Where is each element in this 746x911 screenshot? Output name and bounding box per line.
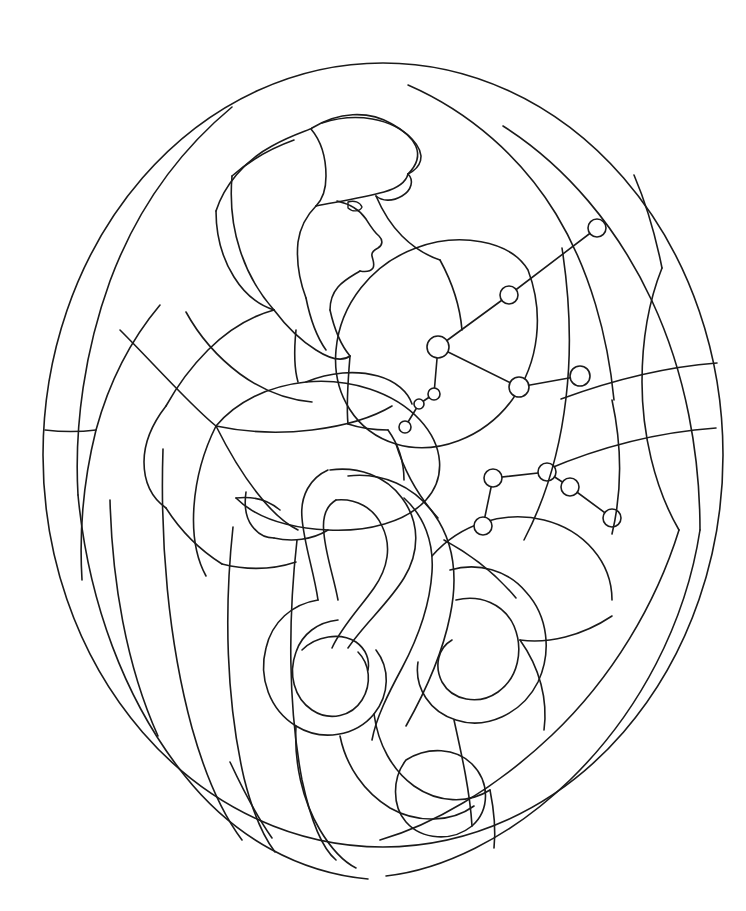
background-fold-left-of-water <box>222 562 296 568</box>
star-s5 <box>570 366 590 386</box>
vessel-rim <box>306 373 412 404</box>
leading-line-right-vertical <box>524 248 569 540</box>
chest-fold-short <box>295 330 298 382</box>
star-t4 <box>603 509 621 527</box>
water-spill-fold <box>274 530 328 540</box>
lower-constellation <box>474 463 621 535</box>
hair-front-mass <box>297 206 316 298</box>
head-covering-brim <box>311 129 326 206</box>
water-ribbon-3-outer <box>374 714 490 800</box>
star-t5 <box>474 517 492 535</box>
star-link-s2-s3 <box>438 295 509 347</box>
star-s3 <box>427 336 449 358</box>
head-covering-lower-edge <box>316 174 408 206</box>
jaw-to-neck <box>330 271 360 310</box>
water-swirl-left-inner <box>293 620 369 716</box>
background-panels <box>45 85 717 879</box>
robe-fold-front <box>347 356 350 424</box>
leading-line-below-sky-circle <box>396 444 438 518</box>
water-ribbon-hook-inner <box>324 500 339 600</box>
star-t3 <box>561 478 579 496</box>
hair-outer-boundary <box>216 128 312 211</box>
glass-leading-extras <box>230 248 620 838</box>
panel-line-left-inner-arc <box>81 305 160 580</box>
head-covering-outer <box>322 118 421 174</box>
panel-line-bottom-right-short <box>520 616 612 641</box>
water-ribbon-1-inner <box>332 500 388 648</box>
panel-line-left-vert-2 <box>162 449 242 840</box>
water-ribbon-1-outer <box>330 469 416 648</box>
star-s7 <box>414 399 424 409</box>
hair-crown-line <box>232 140 294 176</box>
leading-line-right-of-head <box>440 260 462 330</box>
background-curve-mid-right <box>520 640 545 730</box>
water-ribbon-3-inner <box>340 736 474 819</box>
panel-line-bottom-right-sweep-2 <box>380 530 679 840</box>
constellation-background-circles <box>336 240 612 600</box>
face-profile <box>337 201 382 272</box>
water-flow-group <box>222 469 546 868</box>
panel-line-bottom-right-sweep-1 <box>386 530 700 876</box>
robe-fold-right <box>388 430 404 480</box>
hair-inner-fold <box>231 176 274 310</box>
panel-line-bottom-left-sweep <box>78 495 368 879</box>
forearm-line <box>216 426 298 530</box>
leading-line-bottom-center <box>454 720 472 826</box>
neck-right-line <box>330 310 350 356</box>
head-covering-top <box>312 115 418 174</box>
hand-wrist-fold <box>194 426 217 576</box>
star-s6 <box>428 388 440 400</box>
artboard: Aquarius Water Bearer Stained Glass Patt… <box>0 0 746 911</box>
arm-inner-crease <box>186 312 312 402</box>
star-s4 <box>509 377 529 397</box>
panel-line-right-band-lower <box>546 428 716 470</box>
hair-left-silhouette <box>216 211 274 310</box>
hair-back-strand-1 <box>306 298 326 350</box>
panel-line-right-inner-curve <box>642 268 679 530</box>
star-t1 <box>484 469 502 487</box>
panel-line-right-connector <box>634 175 662 268</box>
lower-constellation-stars <box>474 463 621 535</box>
star-link-s3-s4 <box>438 347 519 387</box>
panel-line-left-tick <box>45 430 96 432</box>
line-art-illustration <box>0 0 746 911</box>
elbow-segment <box>120 330 216 426</box>
star-s1 <box>588 219 606 237</box>
star-s8 <box>399 421 411 433</box>
figure-head-group <box>216 115 440 350</box>
panel-line-left-vert-4 <box>291 540 336 860</box>
star-s2 <box>500 286 518 304</box>
